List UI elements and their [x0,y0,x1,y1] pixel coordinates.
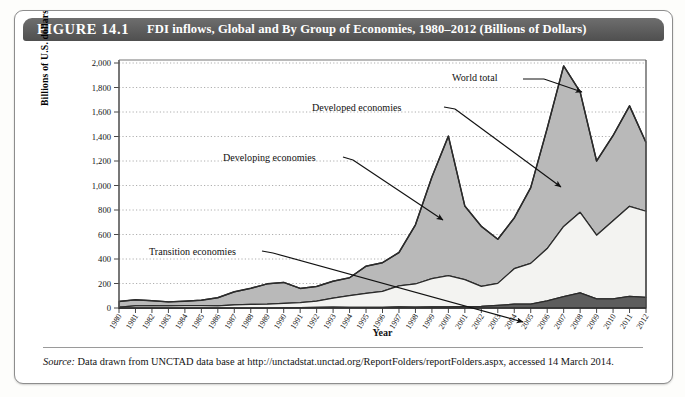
x-axis-title: Year [373,327,394,338]
y-tick-label: 1,600 [92,107,111,117]
y-tick-label: 1,200 [92,156,111,166]
x-tick-label: 2006 [536,312,552,330]
y-tick-label: 200 [98,279,111,289]
source-text: Data drawn from UNCTAD data base at http… [75,356,614,367]
annotation-world-total: World total [452,72,498,83]
x-tick-label: 2000 [437,312,453,330]
stacked-area-chart: 02004006008001,0001,2001,4001,6001,8002,… [23,44,664,344]
y-tick-label: 1,000 [92,181,111,191]
y-tick-label: 800 [98,205,111,215]
x-tick-label: 1987 [223,312,239,330]
x-tick-label: 2011 [618,312,634,330]
x-tick-label: 2008 [569,312,585,330]
x-tick-label: 1983 [157,312,173,330]
source-prefix: Source: [43,356,75,367]
x-tick-label: 1998 [404,312,420,330]
x-tick-label: 1993 [322,312,338,330]
x-tick-label: 2010 [602,312,618,330]
x-tick-label: 1994 [338,312,354,330]
y-tick-label: 1,800 [92,83,111,93]
x-tick-label: 1982 [140,312,156,330]
figure-header-bar: FIGURE 14.1 FDI inflows, Global and By G… [23,18,664,41]
x-tick-label: 1980 [107,312,123,330]
x-tick-label: 1991 [289,312,305,330]
x-tick-label: 1990 [272,312,288,330]
y-tick-label: 2,000 [92,58,111,68]
x-tick-label: 1984 [173,312,189,330]
x-tick-label: 2009 [585,312,601,330]
x-tick-label: 1989 [256,312,272,330]
x-tick-label: 1986 [206,312,222,330]
x-tick-label: 1999 [420,312,436,330]
figure-title: FDI inflows, Global and By Group of Econ… [147,22,587,37]
figure-number: FIGURE 14.1 [37,21,129,38]
x-tick-label: 2001 [453,312,469,330]
x-tick-label: 1985 [190,312,206,330]
x-tick-label: 2012 [634,312,650,330]
x-tick-label: 1988 [239,312,255,330]
x-tick-label: 2002 [470,312,486,330]
y-tick-label: 1,400 [92,132,111,142]
source-note: Source: Data drawn from UNCTAD data base… [43,355,648,369]
x-tick-label: 1995 [355,312,371,330]
y-tick-label: 400 [98,254,111,264]
y-tick-label: 0 [107,303,111,313]
x-tick-label: 2003 [486,312,502,330]
annotation-developed-economies: Developed economies [312,102,401,113]
x-tick-label: 1992 [305,312,321,330]
annotation-transition-economies: Transition economies [149,246,236,257]
figure-card: FIGURE 14.1 FDI inflows, Global and By G… [14,10,673,384]
annotation-developing-economies: Developing economies [223,152,316,163]
source-divider [43,347,643,348]
chart-area: 02004006008001,0001,2001,4001,6001,8002,… [23,44,664,344]
x-tick-label: 2004 [503,312,519,330]
figure-screenshot: FIGURE 14.1 FDI inflows, Global and By G… [0,0,685,397]
x-tick-label: 1981 [124,312,140,330]
x-tick-label: 2007 [552,312,568,330]
y-tick-label: 600 [98,230,111,240]
